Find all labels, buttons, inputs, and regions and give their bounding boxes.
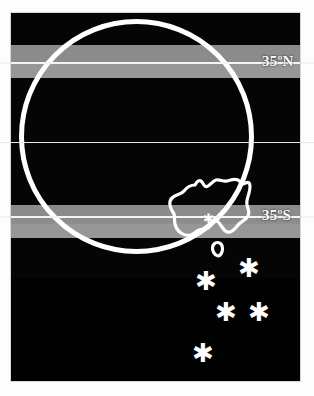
star-becrux-icon: ✱: [238, 256, 260, 282]
lower-sky-region: [11, 278, 300, 381]
night-sky-panel: ✱ ✱ ✱ ✱ ✱ ✱: [11, 13, 300, 381]
star-gacrux-icon: ✱: [195, 269, 217, 295]
latitude-diagram: ✱ ✱ ✱ ✱ ✱ ✱ 35ºN 35ºS: [0, 0, 314, 396]
star-epsilon-icon: ✱: [248, 300, 270, 326]
equator-line: [0, 142, 314, 143]
latitude-label-35s: 35ºS: [262, 207, 291, 224]
star-acrux-icon: ✱: [192, 341, 214, 367]
star-delta-icon: ✱: [215, 300, 237, 326]
latitude-label-35n: 35ºN: [262, 53, 294, 70]
commonwealth-star-icon: ✱: [203, 212, 214, 225]
